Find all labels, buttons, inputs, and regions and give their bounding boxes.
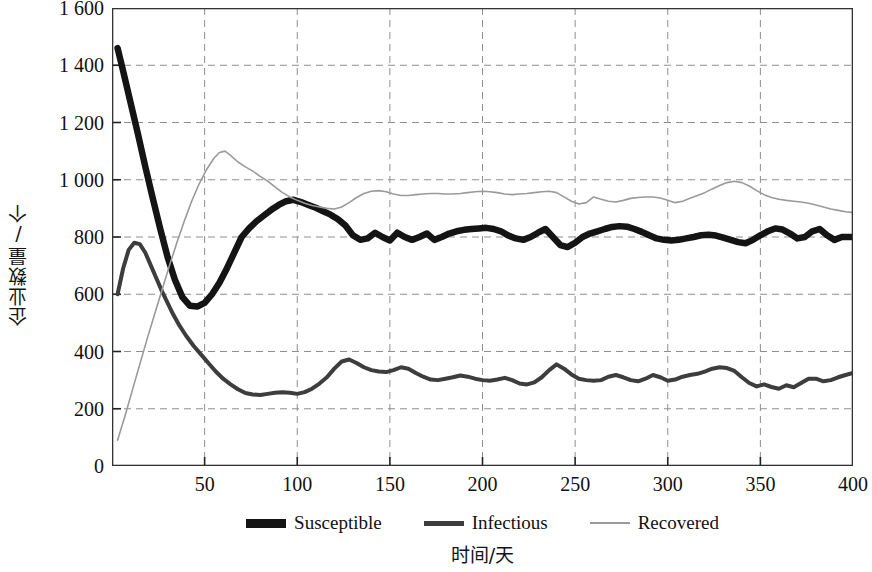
chart-legend: SusceptibleInfectiousRecovered <box>112 512 853 534</box>
x-tick-label: 350 <box>725 474 795 494</box>
x-tick-label: 250 <box>540 474 610 494</box>
legend-label: Recovered <box>638 512 719 534</box>
x-tick-label: 150 <box>355 474 425 494</box>
series-line-susceptible <box>118 48 853 306</box>
x-tick-label: 300 <box>633 474 703 494</box>
line-chart-svg <box>112 8 853 466</box>
x-tick-label: 100 <box>262 474 332 494</box>
chart-figure: 企业数量/个 02004006008001 0001 2001 4001 600… <box>0 0 872 572</box>
x-tick-label: 50 <box>170 474 240 494</box>
legend-label: Infectious <box>472 512 548 534</box>
legend-swatch-infectious <box>424 521 464 526</box>
x-axis-title: 时间/天 <box>112 540 853 567</box>
legend-swatch-susceptible <box>246 519 286 528</box>
series-line-recovered <box>118 151 853 440</box>
legend-item-infectious[interactable]: Infectious <box>424 512 548 534</box>
plot-area <box>112 8 853 466</box>
x-tick-label: 200 <box>448 474 518 494</box>
legend-label: Susceptible <box>294 512 382 534</box>
legend-swatch-recovered <box>590 522 630 524</box>
legend-item-recovered[interactable]: Recovered <box>590 512 719 534</box>
x-tick-label: 400 <box>818 474 872 494</box>
legend-item-susceptible[interactable]: Susceptible <box>246 512 382 534</box>
